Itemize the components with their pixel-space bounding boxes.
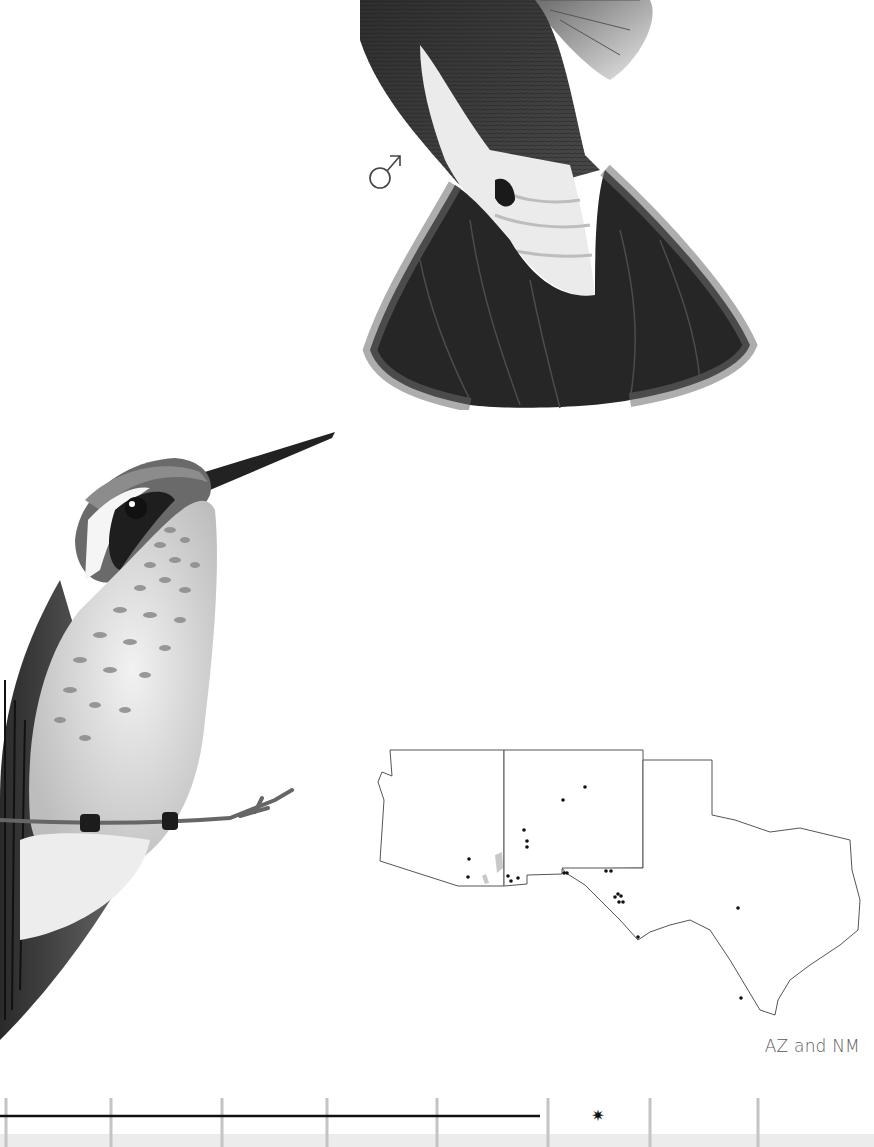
month-tick [110, 1098, 113, 1147]
male-symbol [366, 148, 406, 194]
month-tick [757, 1098, 760, 1147]
occurrence-dot [609, 869, 613, 873]
occurrence-dot [613, 895, 617, 899]
month-tick [547, 1098, 550, 1147]
occurrence-dot [467, 857, 471, 861]
occurrence-dot [617, 900, 621, 904]
occurrence-dot [616, 892, 620, 896]
occurrence-dot [619, 894, 623, 898]
month-tick [221, 1098, 224, 1147]
occurrence-dot [525, 845, 529, 849]
month-tick [649, 1098, 652, 1147]
occurrence-dot [516, 876, 520, 880]
state-az [378, 750, 504, 886]
map-caption: AZ and NM [765, 1036, 860, 1056]
range-map [370, 748, 862, 1020]
month-ticks [5, 1098, 760, 1147]
occurrence-dot [736, 906, 740, 910]
occurrence-dot [506, 874, 510, 878]
month-tick [326, 1098, 329, 1147]
month-tick [5, 1098, 8, 1147]
rare-marker-icon: ✷ [591, 1106, 604, 1125]
occurrence-dot [561, 798, 565, 802]
occurrence-dot [525, 839, 529, 843]
month-tick [436, 1098, 439, 1147]
occurrence-dot [621, 900, 625, 904]
male-hummingbird-illustration [360, 0, 760, 410]
occurrence-dot [739, 996, 743, 1000]
occurrence-dot [604, 869, 608, 873]
occurrence-dot [522, 828, 526, 832]
occurrence-dot [636, 935, 640, 939]
female-hummingbird-illustration [0, 420, 340, 1040]
occurrence-dot [583, 785, 587, 789]
occurrence-dot [509, 879, 513, 883]
occurrence-dot [466, 875, 470, 879]
occurrence-dot [565, 871, 569, 875]
seasonal-occurrence-bar: ✷ [0, 1092, 874, 1147]
state-nm [504, 750, 643, 886]
